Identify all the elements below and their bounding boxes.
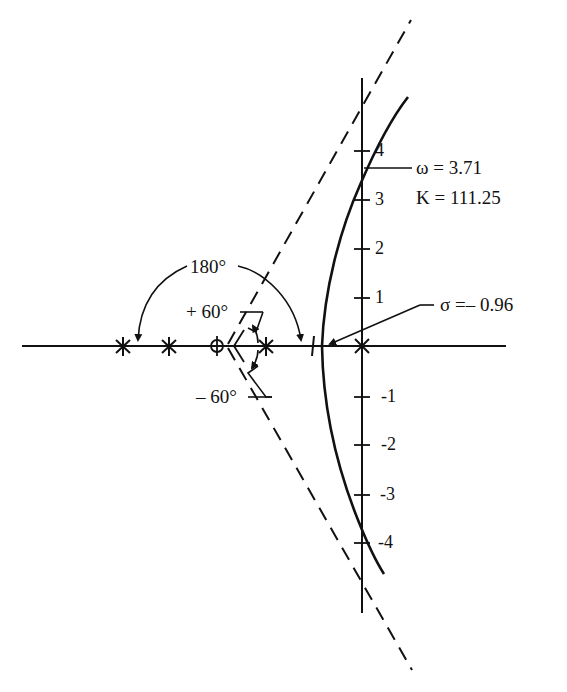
imag-tick-label: 1	[375, 288, 384, 306]
imag-tick-label: -1	[381, 387, 396, 405]
imag-tick-label: -3	[380, 485, 395, 503]
locus-branch-lower	[322, 346, 384, 574]
angle-arc-180-left	[138, 266, 187, 340]
imag-tick-label: -2	[381, 435, 396, 453]
angle-minus60-label: – 60°	[196, 387, 237, 406]
breakaway-label: σ =– 0.96	[440, 295, 513, 314]
minus60-arc	[252, 350, 258, 368]
gain-label: K = 111.25	[416, 188, 501, 207]
imag-tick-label: -4	[378, 533, 393, 551]
root-locus-plot	[0, 0, 567, 692]
locus-branch-upper	[322, 97, 408, 346]
breakaway-tick	[312, 336, 314, 356]
angle-arc-180-right	[238, 266, 301, 340]
omega-label: ω = 3.71	[416, 158, 482, 177]
angle-plus60-label: + 60°	[186, 302, 228, 321]
imag-tick-label: 2	[375, 239, 384, 257]
imag-tick-label: 4	[375, 141, 384, 159]
minus60-bracket	[248, 366, 272, 397]
imag-tick-label: 3	[375, 190, 384, 208]
sigma-leader	[330, 305, 420, 344]
angle-180-label: 180°	[190, 257, 226, 276]
